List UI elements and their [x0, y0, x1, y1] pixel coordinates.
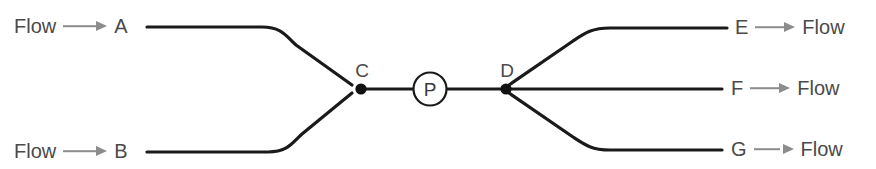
pipe-segment-a-to-c [147, 27, 352, 85]
outlet-g-letter: G [731, 139, 747, 159]
inlet-b-letter: B [114, 141, 127, 161]
outlet-f-letter: F [731, 78, 743, 98]
outlet-e-letter: E [735, 17, 748, 37]
junction-label-c: C [355, 60, 369, 81]
outlet-label-e: E Flow [735, 17, 845, 37]
inlet-b-flow-text: Flow [14, 141, 56, 161]
outlet-label-f: F Flow [731, 78, 839, 98]
junction-dot-c [355, 83, 366, 94]
outlet-g-flow-text: Flow [801, 139, 843, 159]
pipe-segment-d-to-g [509, 93, 722, 150]
outlet-g-arrow-icon [754, 143, 794, 155]
pipe-segment-d-to-e [509, 28, 727, 85]
pump-symbol-label: P [424, 79, 437, 100]
junction-label-d: D [500, 60, 514, 81]
inlet-label-a: Flow A [14, 16, 128, 36]
outlet-f-arrow-icon [750, 82, 790, 94]
inlet-label-b: Flow B [14, 141, 128, 161]
inlet-a-arrow-icon [63, 20, 107, 32]
inlet-a-letter: A [114, 16, 127, 36]
inlet-b-arrow-icon [63, 145, 107, 157]
pipe-network-diagram: P C D Flow A Flow B E Flow F Flow [0, 0, 876, 169]
pipe-segment-b-to-c [147, 93, 352, 152]
outlet-e-flow-text: Flow [802, 17, 844, 37]
outlet-f-flow-text: Flow [797, 78, 839, 98]
outlet-e-arrow-icon [755, 21, 795, 33]
outlet-label-g: G Flow [731, 139, 843, 159]
junction-dot-d [500, 83, 511, 94]
inlet-a-flow-text: Flow [14, 16, 56, 36]
